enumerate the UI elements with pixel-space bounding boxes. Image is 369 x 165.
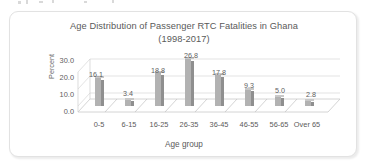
bar-side (101, 80, 104, 106)
bar-top (275, 95, 284, 97)
chart-figure-frame: Age Distribution of Passenger RTC Fatali… (9, 11, 357, 157)
bar-side (191, 61, 194, 106)
bar-top (305, 99, 314, 101)
category-label-over-65: Over 65 (292, 120, 322, 130)
bar-group-56-65[interactable] (275, 48, 284, 106)
scan-speck (39, 1, 43, 3)
scan-speck (112, 0, 114, 3)
bar-side (221, 77, 224, 106)
plot-area: Percent 30.0 20.0 10.0 0.0 (10, 48, 358, 120)
scan-speck (26, 0, 28, 4)
bar-side (281, 98, 284, 106)
scan-speck (84, 1, 87, 3)
chart-title-line1: Age Distribution of Passenger RTC Fatali… (70, 21, 298, 31)
bar-group-16-25[interactable] (155, 48, 164, 106)
bar-group-36-45[interactable] (215, 48, 224, 106)
category-label-6-15: 6-15 (112, 120, 146, 130)
category-label-36-45: 36-45 (202, 120, 236, 130)
chart-title-line2: (1998-2017) (10, 33, 358, 46)
bar-value-label-56-65: 5.0 (265, 86, 295, 95)
bar-side (251, 91, 254, 106)
scan-speck (18, 1, 21, 4)
category-label-46-55: 46-55 (232, 120, 266, 130)
category-label-16-25: 16-25 (142, 120, 176, 130)
chart-title: Age Distribution of Passenger RTC Fatali… (10, 20, 358, 45)
category-label-56-65: 56-65 (262, 120, 296, 130)
bar-side (131, 101, 134, 106)
bar-top (125, 98, 134, 100)
bars-layer: 16.1 3.4 18.8 26.8 (10, 48, 358, 120)
scan-speck (52, 0, 54, 3)
bar-value-label-26-35: 26.8 (176, 51, 206, 60)
x-axis-title: Age group (10, 140, 358, 149)
bar-value-label-over-65: 2.8 (296, 90, 326, 99)
bar-side (161, 75, 164, 106)
bar-group-46-55[interactable] (245, 48, 254, 106)
bar-value-label-6-15: 3.4 (113, 89, 143, 98)
category-label-26-35: 26-35 (172, 120, 206, 130)
bar-value-label-0-5: 16.1 (81, 70, 111, 79)
scan-artifact-strip (0, 0, 369, 9)
bar-value-label-16-25: 18.8 (143, 66, 173, 75)
bar-value-label-46-55: 9.3 (234, 81, 264, 90)
category-label-0-5: 0-5 (82, 120, 116, 130)
bar-side (311, 102, 314, 106)
bar-value-label-36-45: 17.8 (204, 68, 234, 77)
